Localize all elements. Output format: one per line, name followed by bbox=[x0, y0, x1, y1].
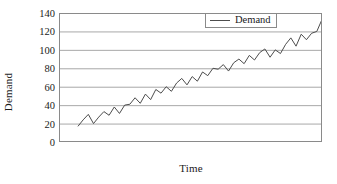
legend-label-demand: Demand bbox=[235, 15, 271, 26]
plot-border bbox=[60, 14, 322, 142]
demand-line-chart: Demand 020406080100120140 Demand Time bbox=[0, 0, 337, 184]
data-series-group bbox=[78, 19, 322, 126]
legend-line-swatch-icon bbox=[210, 20, 230, 21]
chart-legend[interactable]: Demand bbox=[205, 13, 277, 28]
x-axis-title: Time bbox=[59, 162, 323, 174]
plot-canvas bbox=[59, 13, 322, 142]
y-tick-label: 120 bbox=[22, 26, 55, 37]
y-tick-label: 0 bbox=[22, 137, 55, 148]
y-tick-label: 140 bbox=[22, 8, 55, 19]
y-axis-tick-labels: 020406080100120140 bbox=[22, 0, 55, 184]
y-tick-label: 60 bbox=[22, 81, 55, 92]
y-axis-title: Demand bbox=[0, 0, 16, 184]
y-tick-label: 20 bbox=[22, 118, 55, 129]
y-tick-label: 80 bbox=[22, 63, 55, 74]
y-tick-label: 40 bbox=[22, 100, 55, 111]
plot-area bbox=[59, 13, 322, 142]
gridlines bbox=[59, 32, 322, 124]
y-tick-label: 100 bbox=[22, 44, 55, 55]
series-line-demand bbox=[78, 19, 322, 126]
